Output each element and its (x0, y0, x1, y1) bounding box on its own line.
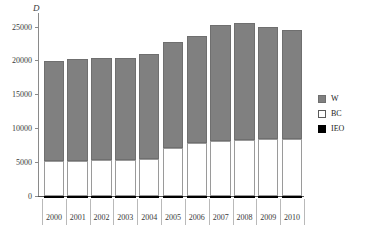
bar-segment-ieo[interactable] (282, 196, 302, 198)
bar-group[interactable] (139, 13, 159, 196)
bar-segment-w[interactable] (67, 59, 87, 160)
bar-segment-bc[interactable] (234, 140, 254, 196)
legend-item[interactable]: W (318, 91, 362, 106)
y-tick-label: 0 (28, 192, 32, 201)
y-tick-mark (35, 196, 38, 197)
x-tick-label: 2005 (165, 213, 181, 222)
bar-segment-bc[interactable] (139, 159, 159, 196)
chart-legend: WBCIEO (318, 91, 362, 136)
x-tick-label: 2003 (117, 213, 133, 222)
bar-segment-w[interactable] (139, 54, 159, 159)
x-tick-separator (90, 199, 91, 225)
bar-segment-ieo[interactable] (139, 196, 159, 198)
bar-segment-ieo[interactable] (91, 196, 111, 198)
x-tick-label: 2006 (189, 213, 205, 222)
bar-segment-w[interactable] (258, 27, 278, 140)
legend-label: W (331, 95, 339, 103)
bar-segment-bc[interactable] (163, 148, 183, 195)
bar-group[interactable] (67, 13, 87, 196)
bar-segment-w[interactable] (234, 23, 254, 140)
x-tick-separator (209, 199, 210, 225)
x-tick-label: 2010 (284, 213, 300, 222)
x-tick-separator (304, 199, 305, 225)
x-tick-label: 2007 (213, 213, 229, 222)
x-tick-label: 2000 (46, 213, 62, 222)
x-tick-separator (256, 199, 257, 225)
bar-segment-bc[interactable] (187, 143, 207, 195)
x-tick-separator (185, 199, 186, 225)
y-tick-mark (35, 27, 38, 28)
bar-segment-bc[interactable] (210, 141, 230, 195)
bar-segment-bc[interactable] (258, 139, 278, 195)
y-tick-label: 25000 (12, 22, 32, 31)
bar-segment-ieo[interactable] (187, 196, 207, 198)
bar-segment-ieo[interactable] (115, 196, 135, 198)
bar-segment-bc[interactable] (91, 160, 111, 195)
x-tick-separator (233, 199, 234, 225)
bar-segment-w[interactable] (210, 25, 230, 142)
legend-swatch-icon (318, 110, 326, 118)
bar-segment-ieo[interactable] (210, 196, 230, 198)
plot-area: 0500010000150002000025000 20002001200220… (38, 13, 304, 196)
bar-group[interactable] (258, 13, 278, 196)
x-tick-separator (280, 199, 281, 225)
y-tick-label: 10000 (12, 124, 32, 133)
y-axis-line (38, 13, 39, 196)
bar-segment-w[interactable] (282, 30, 302, 139)
bar-segment-ieo[interactable] (258, 196, 278, 198)
bar-segment-w[interactable] (44, 61, 64, 161)
y-tick-label: 20000 (12, 56, 32, 65)
bar-group[interactable] (91, 13, 111, 196)
y-tick-label: 5000 (16, 158, 32, 167)
y-tick-label: 15000 (12, 90, 32, 99)
y-axis-title: D (33, 3, 40, 13)
bar-group[interactable] (44, 13, 64, 196)
bar-group[interactable] (282, 13, 302, 196)
x-tick-separator (161, 199, 162, 225)
bar-segment-bc[interactable] (115, 160, 135, 196)
x-tick-separator (137, 199, 138, 225)
bar-group[interactable] (210, 13, 230, 196)
legend-label: IEO (331, 125, 344, 133)
y-tick-mark (35, 162, 38, 163)
x-tick-separator (42, 199, 43, 225)
chart-screenshot: D 0500010000150002000025000 200020012002… (0, 0, 366, 227)
bar-segment-bc[interactable] (282, 139, 302, 196)
bar-segment-w[interactable] (115, 58, 135, 160)
x-tick-label: 2001 (70, 213, 86, 222)
bar-group[interactable] (163, 13, 183, 196)
x-tick-label: 2008 (236, 213, 252, 222)
legend-item[interactable]: IEO (318, 121, 362, 136)
y-tick-mark (35, 94, 38, 95)
y-tick-mark (35, 128, 38, 129)
x-tick-separator (113, 199, 114, 225)
bar-segment-bc[interactable] (67, 161, 87, 196)
x-tick-label: 2004 (141, 213, 157, 222)
legend-swatch-icon (318, 125, 326, 133)
bar-group[interactable] (187, 13, 207, 196)
x-tick-label: 2009 (260, 213, 276, 222)
bar-segment-ieo[interactable] (163, 196, 183, 198)
legend-swatch-icon (318, 95, 326, 103)
legend-label: BC (331, 110, 342, 118)
bar-segment-w[interactable] (163, 42, 183, 148)
x-tick-separator (66, 199, 67, 225)
bar-segment-ieo[interactable] (67, 196, 87, 198)
bar-segment-ieo[interactable] (44, 196, 64, 198)
legend-item[interactable]: BC (318, 106, 362, 121)
bar-segment-ieo[interactable] (234, 196, 254, 198)
bar-segment-w[interactable] (91, 58, 111, 161)
bar-segment-w[interactable] (187, 36, 207, 144)
bar-group[interactable] (234, 13, 254, 196)
bar-group[interactable] (115, 13, 135, 196)
y-tick-mark (35, 60, 38, 61)
bar-segment-bc[interactable] (44, 161, 64, 196)
x-tick-label: 2002 (94, 213, 110, 222)
